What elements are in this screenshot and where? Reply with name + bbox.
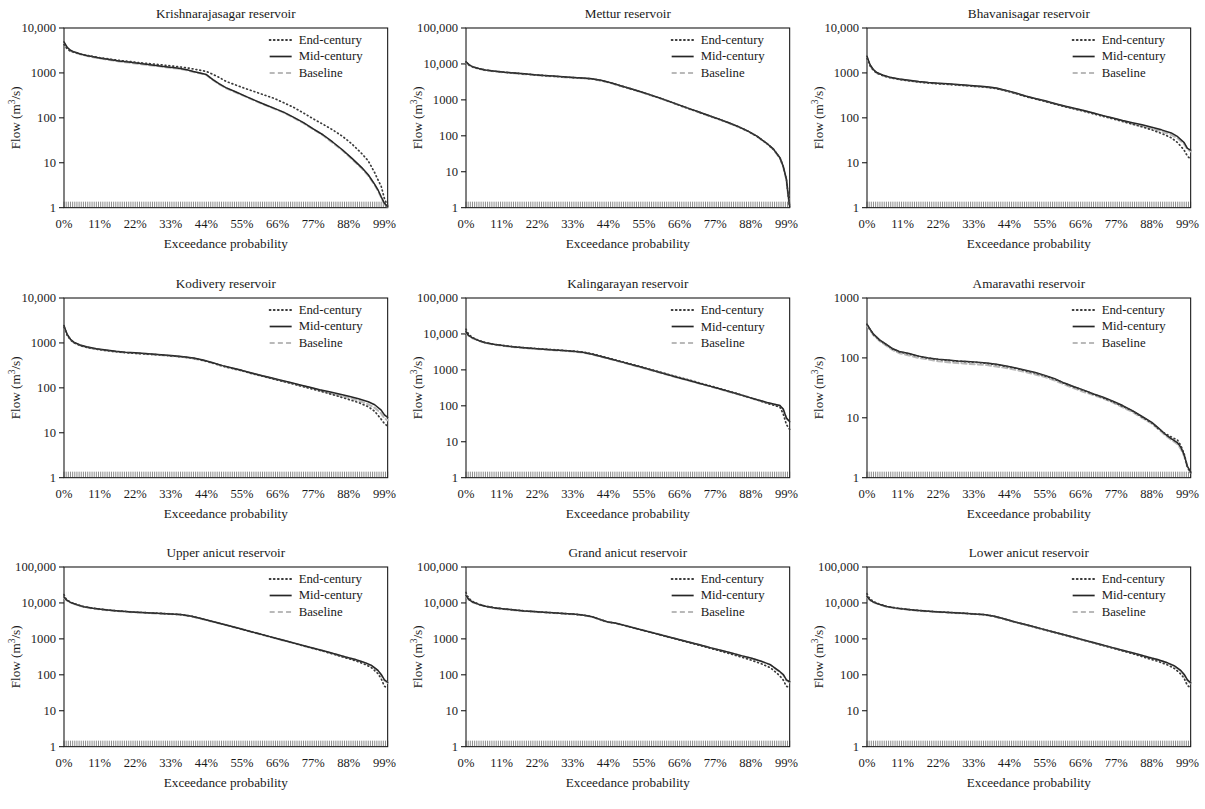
x-tick-label: 88% <box>337 756 361 770</box>
y-tick-label: 10,000 <box>423 597 458 611</box>
panel-title: Kodivery reservoir <box>176 276 277 291</box>
x-tick-label: 77% <box>703 756 727 770</box>
x-tick-label: 33% <box>561 756 585 770</box>
x-tick-label: 33% <box>159 217 183 231</box>
chart-panel-6: Amaravathi reservoir11010010000%11%22%33… <box>803 270 1205 540</box>
panel-title: Grand anicut reservoir <box>568 545 687 560</box>
x-tick-label: 11% <box>490 486 513 500</box>
y-tick-label: 10 <box>43 156 56 170</box>
y-tick-label: 10,000 <box>21 597 56 611</box>
y-tick-label: 10,000 <box>825 597 860 611</box>
y-axis-label: Flow (m3/s) <box>7 86 23 149</box>
x-tick-label: 44% <box>195 217 219 231</box>
y-tick-label: 1 <box>853 471 859 485</box>
y-tick-label: 1 <box>451 201 457 215</box>
y-tick-label: 100,000 <box>417 21 458 35</box>
x-tick-label: 22% <box>124 486 148 500</box>
x-tick-label: 88% <box>739 486 763 500</box>
legend-label-mid: Mid-century <box>700 49 764 63</box>
x-tick-label: 0% <box>56 486 73 500</box>
x-tick-label: 33% <box>561 217 585 231</box>
x-tick-label: 33% <box>159 486 183 500</box>
x-tick-label: 44% <box>195 486 219 500</box>
x-tick-label: 77% <box>302 486 326 500</box>
x-tick-label: 0% <box>56 217 73 231</box>
x-tick-label: 66% <box>266 217 290 231</box>
x-tick-label: 88% <box>337 486 361 500</box>
x-tick-label: 44% <box>597 486 621 500</box>
y-tick-label: 10,000 <box>21 291 56 305</box>
x-tick-label: 55% <box>1034 756 1058 770</box>
x-tick-label: 22% <box>124 217 148 231</box>
y-tick-label: 10 <box>445 165 458 179</box>
y-tick-label: 1 <box>451 740 457 754</box>
y-tick-label: 1 <box>451 471 457 485</box>
x-minor-ticks <box>64 202 388 208</box>
chart-canvas: Lower anicut reservoir110100100010,00010… <box>803 539 1205 809</box>
y-tick-label: 100 <box>840 111 859 125</box>
y-tick-label: 10 <box>847 704 860 718</box>
chart-panel-3: Bhavanisagar reservoir110100100010,0000%… <box>803 0 1205 270</box>
x-tick-label: 55% <box>632 756 656 770</box>
legend-label-mid: Mid-century <box>1102 589 1166 603</box>
panel-title: Kalingarayan reservoir <box>567 276 689 291</box>
chart-canvas: Kodivery reservoir110100100010,0000%11%2… <box>0 270 402 540</box>
x-tick-label: 11% <box>892 486 915 500</box>
y-tick-label: 100,000 <box>15 561 56 575</box>
x-tick-label: 88% <box>1141 486 1165 500</box>
x-tick-label: 99% <box>373 486 397 500</box>
y-tick-label: 10,000 <box>423 327 458 341</box>
x-tick-label: 0% <box>457 756 474 770</box>
x-tick-label: 55% <box>632 486 656 500</box>
y-tick-label: 1000 <box>433 633 458 647</box>
series-line-mid-century <box>466 62 790 207</box>
x-tick-label: 22% <box>124 756 148 770</box>
x-tick-label: 99% <box>1176 486 1200 500</box>
y-tick-label: 10 <box>445 704 458 718</box>
legend-label-base: Baseline <box>700 336 744 350</box>
y-tick-label: 10 <box>445 435 458 449</box>
x-axis-label: Exceedance probability <box>164 236 289 251</box>
legend-label-end: End-century <box>299 303 363 317</box>
legend: End-centuryMid-centuryBaseline <box>1073 303 1166 350</box>
y-tick-label: 1000 <box>834 66 859 80</box>
x-tick-label: 22% <box>927 486 951 500</box>
x-tick-label: 33% <box>963 756 987 770</box>
x-tick-label: 11% <box>88 217 111 231</box>
legend: End-centuryMid-centuryBaseline <box>270 572 363 619</box>
x-tick-label: 66% <box>668 217 692 231</box>
x-tick-label: 88% <box>1141 217 1165 231</box>
chart-panel-2: Mettur reservoir110100100010,000100,0000… <box>402 0 804 270</box>
panel-title: Mettur reservoir <box>584 6 671 21</box>
x-tick-label: 99% <box>1176 217 1200 231</box>
figure-panel-grid: Krishnarajasagar reservoir110100100010,0… <box>0 0 1205 809</box>
x-tick-label: 99% <box>775 217 799 231</box>
panel-title: Upper anicut reservoir <box>167 545 286 560</box>
y-tick-label: 1000 <box>834 633 859 647</box>
x-tick-label: 99% <box>373 217 397 231</box>
x-axis-label: Exceedance probability <box>164 775 289 790</box>
y-tick-label: 1000 <box>834 291 859 305</box>
x-tick-label: 11% <box>88 486 111 500</box>
y-axis-label: Flow (m3/s) <box>7 626 23 689</box>
x-tick-label: 66% <box>668 486 692 500</box>
y-axis-label: Flow (m3/s) <box>409 86 425 149</box>
y-tick-label: 1 <box>853 201 859 215</box>
x-tick-label: 0% <box>859 756 876 770</box>
legend-label-mid: Mid-century <box>700 319 765 333</box>
x-tick-label: 22% <box>525 486 549 500</box>
chart-canvas: Mettur reservoir110100100010,000100,0000… <box>402 0 804 270</box>
chart-panel-9: Lower anicut reservoir110100100010,00010… <box>803 539 1205 809</box>
y-tick-label: 1 <box>50 740 56 754</box>
x-minor-ticks <box>867 741 1191 747</box>
legend-label-base: Baseline <box>1102 66 1146 80</box>
x-tick-label: 55% <box>230 486 254 500</box>
y-tick-label: 100 <box>840 669 859 683</box>
y-tick-label: 10 <box>847 411 860 425</box>
x-tick-label: 11% <box>490 217 513 231</box>
chart-canvas: Krishnarajasagar reservoir110100100010,0… <box>0 0 402 270</box>
x-tick-label: 33% <box>963 486 987 500</box>
x-tick-label: 55% <box>230 217 254 231</box>
legend: End-centuryMid-centuryBaseline <box>270 33 363 80</box>
x-axis-label: Exceedance probability <box>565 505 690 520</box>
